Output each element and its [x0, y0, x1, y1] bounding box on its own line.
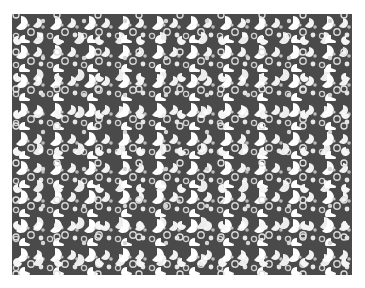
texture-canvas [12, 14, 352, 275]
blob-texture [12, 14, 352, 275]
